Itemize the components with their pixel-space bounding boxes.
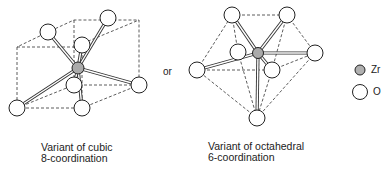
o-legend-icon — [353, 85, 368, 100]
zr-legend-icon — [355, 65, 365, 75]
left-caption: Variant of cubic 8-coordination — [41, 142, 113, 164]
octahedral-structure — [189, 7, 323, 126]
o-legend-label: O — [373, 86, 381, 97]
zr-legend-label: Zr — [371, 64, 380, 75]
cubic-structure — [9, 10, 147, 116]
left-caption-line2: 8-coordination — [41, 153, 113, 164]
or-connector: or — [163, 66, 172, 77]
right-caption: Variant of octahedral 6-coordination — [208, 141, 304, 163]
right-caption-line2: 6-coordination — [208, 152, 304, 163]
